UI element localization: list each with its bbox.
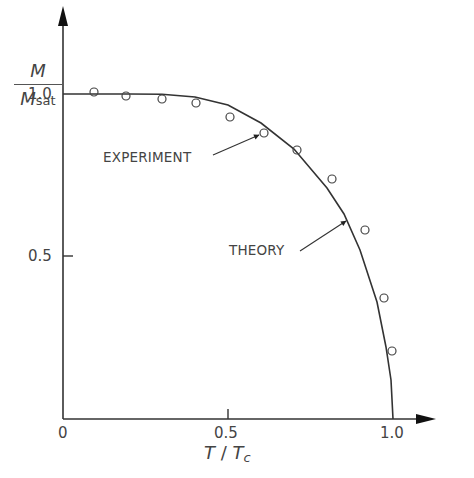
x-axis-arrow-icon xyxy=(416,414,436,424)
x-tick-label-1.0: 1.0 xyxy=(380,426,404,441)
x-axis xyxy=(63,409,436,424)
experiment-points xyxy=(90,88,396,355)
theory-curve xyxy=(63,94,393,419)
experiment-label: EXPERIMENT xyxy=(103,151,191,165)
x-label-main: T xyxy=(204,442,215,463)
x-tick-label-0: 0 xyxy=(58,426,68,441)
experiment-arrow xyxy=(213,135,259,155)
y-tick-label-1.0: 1.0 xyxy=(28,87,52,102)
theory-arrow xyxy=(300,221,346,251)
x-label-den-sub: c xyxy=(244,450,251,465)
y-tick-label-0.5: 0.5 xyxy=(28,249,52,264)
chart-canvas xyxy=(0,0,474,478)
x-axis-label: T / Tc xyxy=(204,442,251,465)
x-tick-label-0.5: 0.5 xyxy=(214,426,238,441)
x-label-den: T xyxy=(233,442,244,463)
x-label-sep: / xyxy=(215,442,233,463)
theory-label: THEORY xyxy=(229,244,285,258)
y-axis-arrow-icon xyxy=(58,6,68,26)
y-label-numerator: M xyxy=(12,60,64,84)
